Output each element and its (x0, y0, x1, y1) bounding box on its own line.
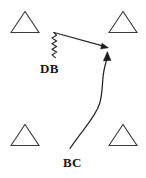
player-label-db: DB (40, 61, 59, 77)
player-label-bc: BC (63, 155, 82, 171)
cone-bottom-left-icon (11, 125, 39, 146)
db-arrow-shaft (54, 33, 104, 47)
cone-top-left-icon (11, 12, 39, 33)
cone-top-right-icon (109, 12, 137, 33)
bc-curve-shaft (70, 59, 107, 149)
play-diagram: DB BC (0, 0, 146, 178)
bc-arrow-head-icon (103, 52, 111, 62)
cone-bottom-right-icon (109, 125, 137, 146)
db-arrow-head-icon (101, 43, 109, 49)
play-diagram-canvas (0, 0, 146, 178)
db-zigzag-path (52, 33, 57, 58)
